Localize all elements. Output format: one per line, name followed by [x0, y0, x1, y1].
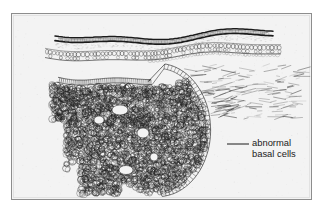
- annotation-label-line-2: basal cells: [252, 148, 296, 159]
- figure-page: abnormal basal cells: [0, 0, 329, 210]
- dermal-collagen-fibers: [185, 64, 312, 120]
- epidermis-cell-row: [45, 43, 281, 63]
- annotation-label-line-1: abnormal: [252, 137, 291, 148]
- histology-illustration: abnormal basal cells: [0, 0, 329, 210]
